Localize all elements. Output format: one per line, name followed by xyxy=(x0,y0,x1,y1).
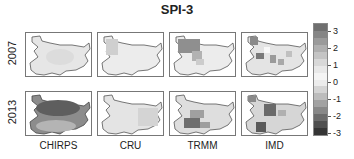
colorbar-step xyxy=(314,38,327,45)
colorbar-step xyxy=(314,86,327,93)
col-label-imd: IMD xyxy=(241,140,308,151)
colorbar-step xyxy=(314,80,327,87)
map-2013-cru xyxy=(97,91,164,136)
row-label-2013: 2013 xyxy=(6,92,18,132)
colorbar-step xyxy=(314,73,327,80)
col-label-trmm: TRMM xyxy=(169,140,236,151)
colorbar-tick: -3 xyxy=(328,129,341,138)
colorbar-step xyxy=(314,114,327,121)
col-label-chirps: CHIRPS xyxy=(25,140,92,151)
colorbar-step xyxy=(314,128,327,135)
map-2007-trmm xyxy=(169,32,236,77)
map-2013-chirps xyxy=(25,91,92,136)
col-label-cru: CRU xyxy=(97,140,164,151)
colorbar-tick: 0 xyxy=(328,78,338,87)
colorbar-step xyxy=(314,66,327,73)
map-2013-trmm xyxy=(169,91,236,136)
colorbar-tick: -2 xyxy=(328,112,341,121)
colorbar-step xyxy=(314,100,327,107)
colorbar-step xyxy=(314,24,327,31)
chart-title: SPI-3 xyxy=(0,2,354,17)
colorbar-step xyxy=(314,59,327,66)
map-2007-chirps xyxy=(25,32,92,77)
map-2007-imd xyxy=(241,32,308,77)
colorbar-step xyxy=(314,45,327,52)
colorbar-step xyxy=(314,121,327,128)
colorbar-step xyxy=(314,107,327,114)
map-2013-imd xyxy=(241,91,308,136)
colorbar-tick: -1 xyxy=(328,95,341,104)
map-2007-cru xyxy=(97,32,164,77)
colorbar-step xyxy=(314,52,327,59)
colorbar-tick: 3 xyxy=(328,27,338,36)
colorbar-tick: 2 xyxy=(328,44,338,53)
colorbar-step xyxy=(314,31,327,38)
colorbar-tick: 1 xyxy=(328,61,338,70)
colorbar xyxy=(313,23,328,136)
colorbar-step xyxy=(314,93,327,100)
row-label-2007: 2007 xyxy=(6,33,18,73)
